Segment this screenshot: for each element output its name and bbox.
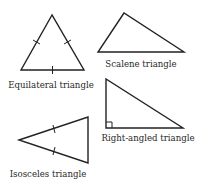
right-angled-triangle-shape <box>106 79 183 128</box>
equilateral-triangle-shape <box>21 15 84 70</box>
equilateral-label: Equilateral triangle <box>8 80 93 90</box>
right-angle-marker-icon <box>106 122 112 128</box>
scalene-triangle: Scalene triangle <box>98 13 184 69</box>
isosceles-label: Isosceles triangle <box>10 169 87 179</box>
isosceles-triangle: Isosceles triangle <box>10 117 88 179</box>
isosceles-triangle-shape <box>19 117 88 163</box>
right-angled-triangle: Right-angled triangle <box>101 79 194 143</box>
scalene-label: Scalene triangle <box>105 59 176 69</box>
equilateral-triangle: Equilateral triangle <box>8 15 93 90</box>
scalene-triangle-shape <box>98 13 184 52</box>
right-angled-label: Right-angled triangle <box>101 133 194 143</box>
triangle-types-diagram: Equilateral triangle Scalene triangle Ri… <box>0 0 197 186</box>
